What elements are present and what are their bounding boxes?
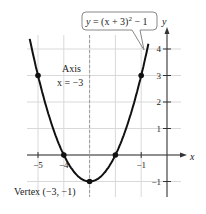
x-axis-arrow-icon: [180, 153, 187, 158]
data-point: [35, 73, 41, 79]
x-tick-label: −5: [33, 160, 43, 170]
equation-callout: y = (x + 3)2 − 1: [82, 12, 157, 50]
y-tick-label: 3: [157, 71, 162, 81]
parabola-curve: [30, 39, 149, 182]
axes: [27, 27, 187, 197]
y-axis-label: y: [161, 16, 167, 27]
axis-annotation-line2: x = −3: [57, 77, 83, 88]
parabola-chart: −5−4−1−11234 x y Axis x = −3 Vertex (−3,…: [0, 0, 206, 214]
vertex-annotation: Vertex (−3, −1): [14, 186, 76, 198]
x-tick-label: −1: [136, 160, 146, 170]
y-axis-arrow-icon: [165, 27, 170, 34]
y-tick-label: 1: [157, 124, 162, 134]
y-tick-label: 2: [157, 97, 162, 107]
y-tick-label: −1: [151, 177, 161, 187]
data-point: [113, 152, 119, 158]
data-point: [138, 73, 144, 79]
equation-label: y = (x + 3)2 − 1: [85, 15, 148, 28]
x-axis-label: x: [189, 151, 195, 162]
tick-labels: −5−4−1−11234: [33, 44, 171, 187]
data-point: [87, 179, 93, 185]
axis-annotation-line1: Axis: [62, 63, 81, 74]
data-point: [61, 152, 67, 158]
y-tick-label: 4: [157, 44, 162, 54]
